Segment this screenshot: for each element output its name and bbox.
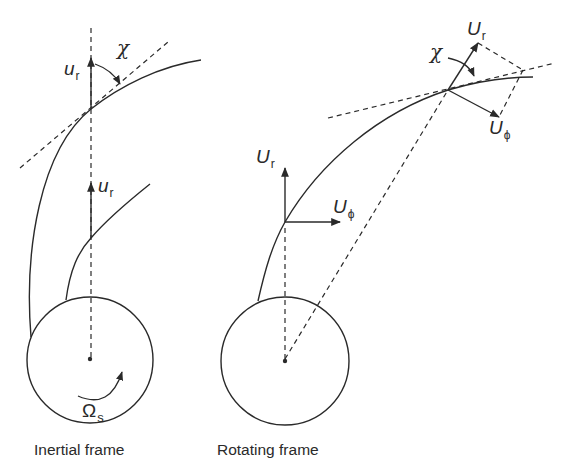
inertial-frame-diagram [20,28,201,423]
caption-inertial-frame: Inertial frame [34,441,124,459]
Ur-label-high: Ur [467,18,486,40]
ur-label-inner: ur [98,175,114,197]
Uphi-arrow-high [448,90,499,117]
chi-angle-arc-inertial [95,64,120,84]
chi-angle-arc-rotating [448,58,474,76]
Uphi-label-high: Uϕ [489,117,510,139]
spiral-rotating [258,77,533,301]
Ur-label-low: Ur [256,146,275,168]
tangent-dashed-line-rotating [328,63,555,118]
parallelogram-dashed-top [478,43,523,70]
chi-label-inertial: χ [117,36,129,60]
oblique-dashed-line-rotating [285,90,448,359]
tangent-dashed-line-inertial [20,42,168,168]
spiral-outer-inertial [29,60,201,337]
center-dot-rotating [283,359,287,363]
spiral-inner-inertial [66,184,150,300]
rotation-arrow-icon [78,372,122,400]
caption-rotating-frame: Rotating frame [217,441,319,459]
chi-label-rotating: χ [430,40,442,64]
omega-s-label: Ωs [82,400,104,422]
ur-label-top: ur [64,58,80,80]
rotating-frame-diagram [221,43,555,425]
center-dot-inertial [88,357,92,361]
Uphi-label-low: Uϕ [333,196,354,218]
